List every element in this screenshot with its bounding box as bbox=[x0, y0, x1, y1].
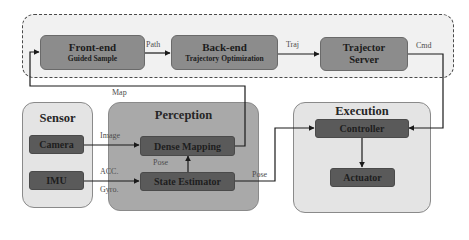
image-label: Image bbox=[100, 131, 120, 140]
pose-internal-label: Pose bbox=[153, 158, 168, 167]
actuator-node: Actuator bbox=[330, 168, 395, 187]
map-label: Map bbox=[112, 88, 127, 97]
backend-subtitle: Trajectory Optimization bbox=[185, 55, 263, 63]
path-label: Path bbox=[146, 40, 160, 49]
backend-node: Back-end Trajectory Optimization bbox=[171, 35, 278, 70]
server-title-line1: Trajector bbox=[343, 42, 385, 54]
acc-label: ACC. bbox=[100, 167, 118, 176]
frontend-node: Front-end Guided Sample bbox=[40, 35, 145, 70]
camera-node: Camera bbox=[29, 135, 84, 154]
state-estimator-node: State Estimator bbox=[140, 172, 235, 191]
cmd-label: Cmd bbox=[416, 41, 432, 50]
backend-title: Back-end bbox=[202, 41, 247, 53]
frontend-subtitle: Guided Sample bbox=[68, 55, 117, 63]
server-title-line2: Server bbox=[349, 54, 379, 66]
trajectory-server-node: Trajector Server bbox=[320, 37, 408, 71]
traj-label: Traj bbox=[286, 40, 299, 49]
frontend-title: Front-end bbox=[69, 41, 116, 53]
controller-node: Controller bbox=[315, 119, 409, 138]
gyro-label: Gyro. bbox=[100, 185, 118, 194]
imu-node: IMU bbox=[29, 171, 84, 190]
pose-out-label: Pose bbox=[252, 170, 267, 179]
dense-mapping-node: Dense Mapping bbox=[140, 136, 235, 156]
